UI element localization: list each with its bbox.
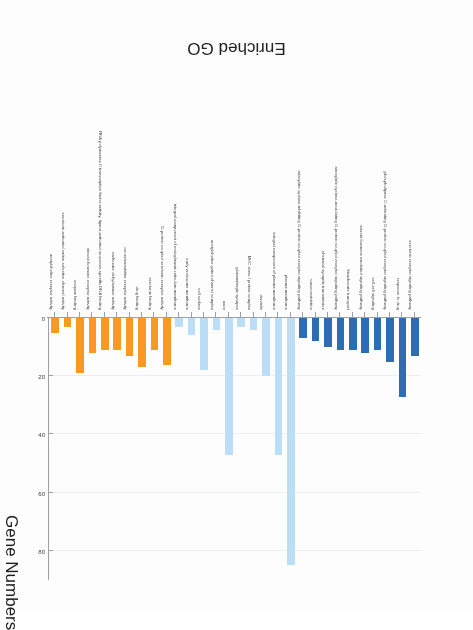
bar[interactable] [349, 318, 357, 350]
bar[interactable] [411, 318, 419, 356]
y-axis-title: Gene Numbers [1, 515, 21, 630]
x-tick-label: glutamatergic synapse [235, 267, 240, 310]
x-tick-mark [215, 312, 216, 317]
x-tick-label: drug binding [135, 286, 140, 310]
x-tick-label: enzyme binding [73, 280, 78, 310]
x-axis-tick-labels: serotonin receptor signaling pathwayresp… [49, 70, 421, 310]
y-tick-mark [48, 317, 53, 318]
x-tick-mark [302, 312, 303, 317]
x-tick-label: neurotransmitter receptor activity [123, 248, 128, 310]
x-tick-mark [339, 312, 340, 317]
x-tick-mark [315, 312, 316, 317]
bar[interactable] [76, 318, 84, 373]
bar[interactable] [399, 318, 407, 397]
x-tick-label: dendrite [259, 295, 264, 310]
bar[interactable] [188, 318, 196, 335]
x-tick-label: cell surface [197, 288, 202, 310]
bar[interactable] [262, 318, 270, 376]
x-tick-mark [91, 312, 92, 317]
x-tick-mark [377, 312, 378, 317]
bar[interactable] [386, 318, 394, 362]
x-tick-mark [67, 312, 68, 317]
x-axis-ticks [49, 311, 421, 317]
x-tick-mark [141, 312, 142, 317]
bar[interactable] [299, 318, 307, 338]
x-tick-mark [178, 312, 179, 317]
x-tick-label: integral component of endoplasmic reticu… [173, 204, 178, 310]
x-tick-mark [203, 312, 204, 317]
bar[interactable] [51, 318, 59, 333]
y-tick-mark [48, 550, 53, 551]
bar[interactable] [213, 318, 221, 330]
bar[interactable] [175, 318, 183, 327]
x-tick-label: acetylcholine receptor activity [49, 254, 54, 310]
y-tick-label: 20 [38, 374, 45, 380]
bar[interactable] [101, 318, 109, 350]
bar[interactable] [312, 318, 320, 341]
y-tick-label: 40 [38, 432, 45, 438]
bar[interactable] [237, 318, 245, 327]
bar[interactable] [151, 318, 159, 350]
x-tick-label: plasma membrane [284, 275, 289, 310]
bar[interactable] [89, 318, 97, 353]
x-tick-label: serotonin-activated cation-selective cha… [61, 213, 66, 310]
x-tick-label: serotonin binding [148, 277, 153, 310]
x-tick-label: bicarbonate transport [346, 270, 351, 310]
x-tick-mark [191, 312, 192, 317]
bar[interactable] [287, 318, 295, 565]
bar[interactable] [138, 318, 146, 367]
x-tick-label: steroid hormone mediated signaling pathw… [359, 225, 364, 310]
x-tick-mark [104, 312, 105, 317]
x-axis-line [47, 317, 421, 318]
x-tick-mark [79, 312, 80, 317]
x-tick-mark [414, 312, 415, 317]
bar[interactable] [337, 318, 345, 350]
x-tick-mark [364, 312, 365, 317]
x-tick-mark [228, 312, 229, 317]
x-tick-mark [240, 312, 241, 317]
bar[interactable] [64, 318, 72, 327]
x-tick-label: integral component of plasma membrane [272, 233, 277, 310]
x-tick-mark [290, 312, 291, 317]
bar[interactable] [324, 318, 332, 347]
x-tick-mark [389, 312, 390, 317]
x-tick-label: response to drug [396, 278, 401, 310]
x-tick-mark [401, 312, 402, 317]
bar[interactable] [250, 318, 258, 330]
x-axis-title: Enriched GO [0, 38, 473, 58]
bar[interactable] [275, 318, 283, 455]
y-tick-label: 0 [42, 316, 45, 322]
y-axis-line [48, 317, 49, 580]
x-tick-label: phospholipase C-activating G-protein cou… [383, 172, 388, 311]
bar[interactable] [225, 318, 233, 455]
x-tick-mark [54, 312, 55, 317]
x-tick-label: adenylate cyclase-modulating G-protein c… [334, 167, 339, 310]
x-tick-label: MHC class I protein complex [247, 256, 252, 310]
x-tick-label: early endosome membrane [185, 258, 190, 310]
bar[interactable] [113, 318, 121, 350]
x-tick-label: adenylate cyclase-inhibiting G-protein c… [297, 170, 302, 310]
x-tick-label: carbonate dehydratase activity [111, 252, 116, 310]
x-tick-mark [129, 312, 130, 317]
x-tick-label: G-protein coupled serotonin receptor act… [160, 226, 165, 310]
bar[interactable] [126, 318, 134, 356]
x-tick-mark [265, 312, 266, 317]
x-tick-mark [116, 312, 117, 317]
y-tick-mark [48, 375, 53, 376]
x-tick-mark [166, 312, 167, 317]
y-tick-mark [48, 492, 53, 493]
x-tick-label: vasoconstriction [309, 279, 314, 310]
bar[interactable] [374, 318, 382, 350]
bar[interactable] [163, 318, 171, 365]
x-tick-label: steroid hormone receptor activity [86, 248, 91, 310]
x-tick-label: acetylcholine-gated channel complex [210, 240, 215, 310]
x-tick-label: axon [222, 301, 227, 310]
bars-container [49, 318, 421, 580]
y-tick-mark [48, 433, 53, 434]
bar[interactable] [361, 318, 369, 353]
x-tick-label: serotonin receptor signaling pathway [408, 240, 413, 310]
bar[interactable] [200, 318, 208, 370]
x-tick-label: chemical synaptic transmission [321, 251, 326, 310]
